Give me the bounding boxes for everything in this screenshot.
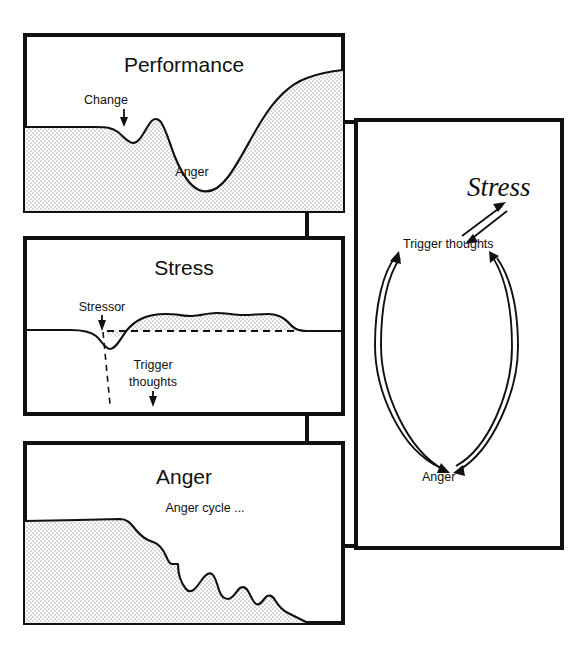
cycle-node-trigger-thoughts: Trigger thoughts — [403, 237, 494, 251]
figure-canvas: Stress Trigger thoughts Anger — [0, 0, 583, 647]
panel-stress: Stress Stressor Trigger thoughts — [25, 238, 343, 414]
anger-label-cycle-note: Anger cycle ... — [165, 501, 244, 515]
performance-panel-title: Performance — [124, 53, 244, 76]
stress-label-trigger-line1: Trigger — [133, 358, 172, 372]
performance-label-change: Change — [84, 93, 128, 107]
panel-cycle: Stress Trigger thoughts Anger — [356, 120, 562, 548]
performance-label-anger: Anger — [175, 165, 208, 179]
panel-performance: Performance Change Anger — [25, 35, 343, 211]
stress-anger-performance-figure: Stress Trigger thoughts Anger — [0, 0, 583, 647]
cycle-panel-frame — [356, 120, 562, 548]
stress-label-stressor: Stressor — [79, 300, 126, 314]
panel-anger: Anger Anger cycle ... — [25, 443, 343, 623]
anger-panel-title: Anger — [156, 465, 212, 488]
cycle-heading-stress: Stress — [467, 172, 531, 202]
stress-panel-title: Stress — [154, 256, 214, 279]
stress-label-trigger-line2: thoughts — [129, 375, 177, 389]
